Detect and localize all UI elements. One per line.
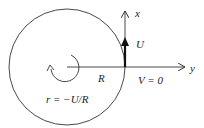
velocity-v-label: V = 0 [138,74,163,86]
y-axis-label: y [189,62,195,74]
velocity-u-label: U [136,38,145,50]
turning-circle-diagram: x y U V = 0 R r = −U/R [0,0,204,128]
yaw-rate-label: r = −U/R [46,93,89,105]
x-axis-label: x [134,7,140,19]
radius-label: R [97,72,105,84]
rotation-arrow-icon [51,55,79,82]
rotation-arrowhead-icon [47,65,54,71]
velocity-u-arrow [121,37,129,67]
